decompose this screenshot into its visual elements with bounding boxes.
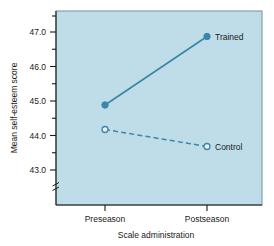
chart-figure: 47.0 46.0 45.0 44.0 43.0 Mean self-estee…: [0, 0, 274, 246]
y-axis-major-ticks: [50, 32, 56, 170]
y-tick-label-46: 46.0: [29, 62, 46, 72]
data-point-trained-postseason: [204, 33, 210, 39]
x-tick-label-postseason: Postseason: [185, 214, 230, 224]
x-axis-ticks: [105, 205, 207, 211]
series-label-trained: Trained: [215, 32, 244, 42]
y-tick-label-47: 47.0: [29, 27, 46, 37]
y-tick-label-43: 43.0: [29, 165, 46, 175]
y-tick-label-45: 45.0: [29, 96, 46, 106]
x-tick-label-preseason: Preseason: [85, 214, 126, 224]
series-label-control: Control: [215, 142, 243, 152]
x-axis-title: Scale administration: [118, 230, 195, 240]
y-axis-minor-ticks: [52, 16, 56, 153]
data-point-control-postseason: [204, 144, 210, 150]
data-point-trained-preseason: [102, 102, 108, 108]
y-tick-label-44: 44.0: [29, 131, 46, 141]
y-axis-title: Mean self-esteem score: [9, 62, 19, 153]
data-point-control-preseason: [102, 127, 108, 133]
line-chart-svg: 47.0 46.0 45.0 44.0 43.0 Mean self-estee…: [0, 0, 274, 246]
